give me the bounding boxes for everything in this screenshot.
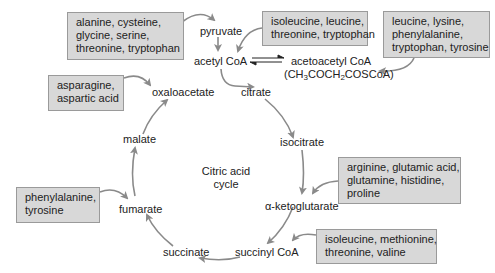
node-isocitrate: isocitrate [280,136,324,148]
amino-acid-box-succinyl-coa: isoleucine, methionine, threonine, valin… [316,229,437,264]
center-label-line: cycle [196,178,256,191]
node-acetoacetyl-coa: acetoacetyl CoA [291,55,371,67]
box-line: tryptophan, tyrosine [392,41,481,54]
node-acetoacetyl-formula: (CH3COCH2COSCoA) [284,68,394,80]
box-line: phenylalanine, [25,191,91,204]
center-label-line: Citric acid [196,165,256,178]
node-acetyl-coa: acetyl CoA [194,55,247,67]
node-succinate: succinate [163,246,209,258]
box-line: leucine, lysine, [392,15,481,28]
box-line: isoleucine, leucine, [271,15,359,28]
box-line: threonine, tryptophan [76,42,175,55]
box-line: phenylalanine, [392,28,481,41]
node-malate: malate [123,133,156,145]
amino-acid-box-alpha-ketoglutarate: arginine, glutamic acid, glutamine, hist… [338,157,461,204]
node-pyruvate: pyruvate [200,25,242,37]
node-succinyl-coa: succinyl CoA [235,246,299,258]
amino-acid-box-acetoacetyl-coa: leucine, lysine, phenylalanine, tryptoph… [383,11,490,58]
box-line: arginine, glutamic acid, [347,161,452,174]
amino-acid-box-oxaloacetate: asparagine, aspartic acid [48,75,124,111]
node-fumarate: fumarate [119,203,162,215]
box-line: alanine, cysteine, [76,16,175,29]
amino-acid-box-fumarate: phenylalanine, tyrosine [16,187,100,223]
amino-acid-box-acetyl-coa: isoleucine, leucine, threonine, tryptoph… [262,11,368,46]
formula-part: COCH [308,68,340,80]
box-line: threonine, tryptophan [271,28,359,41]
node-alpha-ketoglutarate: α-ketoglutarate [265,200,339,212]
cycle-center-label: Citric acid cycle [196,165,256,191]
box-line: proline [347,187,452,200]
box-line: glycine, serine, [76,29,175,42]
node-oxaloacetate: oxaloacetate [152,86,214,98]
box-line: glutamine, histidine, [347,174,452,187]
formula-part: COSCoA) [345,68,394,80]
box-line: threonine, valine [325,246,428,259]
box-line: isoleucine, methionine, [325,233,428,246]
formula-part: (CH [284,68,304,80]
amino-acid-box-pyruvate: alanine, cysteine, glycine, serine, thre… [67,12,184,60]
box-line: tyrosine [25,204,91,217]
box-line: asparagine, [57,79,115,92]
node-citrate: citrate [241,86,271,98]
box-line: aspartic acid [57,92,115,105]
